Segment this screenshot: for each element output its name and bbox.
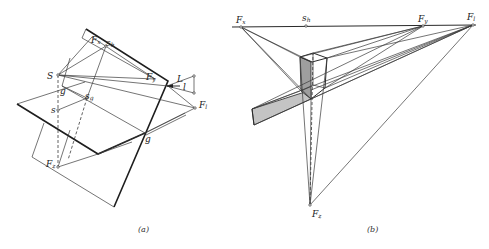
horizon-line (232, 25, 476, 27)
label-S: S (47, 71, 53, 81)
label-sh-b: sh (302, 13, 311, 23)
picture-plane-a (86, 29, 168, 207)
label-s: s (51, 105, 56, 115)
beam-side-face (252, 90, 311, 125)
label-L: L (176, 74, 183, 84)
label-Fy-b: Fy (417, 14, 428, 25)
panel-a: S Fx sh Fy L l Fl g sg s g Fz (a) (17, 29, 207, 234)
label-sg: sg (85, 91, 94, 102)
ground-rect-a (32, 123, 114, 207)
label-Fx-a: Fx (90, 35, 101, 45)
caption-a: (a) (138, 225, 149, 234)
label-g-lower: g (145, 134, 151, 144)
label-sh-a: sh (106, 38, 115, 48)
label-Fx-b: Fx (235, 15, 246, 25)
label-Fy-a: Fy (145, 72, 156, 83)
caption-b: (b) (367, 225, 378, 234)
label-Fz-a: Fz (45, 159, 56, 169)
panel-b: Fx sh Fy Fl Fz (b) (232, 12, 476, 234)
label-g-upper: g (60, 86, 66, 96)
horizontal-plane-a (17, 104, 145, 154)
label-Fz-b: Fz (311, 209, 322, 219)
label-Fl-b: Fl (466, 12, 475, 22)
label-l: l (183, 82, 186, 92)
perspective-figure: S Fx sh Fy L l Fl g sg s g Fz (a) (0, 0, 489, 249)
label-Fl-a: Fl (198, 100, 207, 110)
